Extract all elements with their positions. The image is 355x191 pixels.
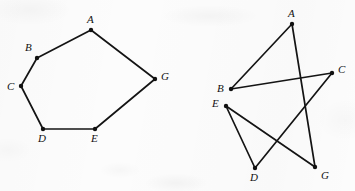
vertex-label-e: E (212, 98, 219, 109)
vertex-label-d: D (250, 172, 258, 183)
graph-vertex-c (330, 71, 334, 75)
graph-vertex-e (224, 104, 228, 108)
graph-vertex-d (253, 166, 257, 170)
graph-vertex-a (290, 22, 294, 26)
figure-page: ABCDEG ABCDEG (0, 0, 355, 191)
graph-vertex-g (313, 165, 317, 169)
vertex-label-g: G (321, 170, 329, 181)
graph-edge-c-d (255, 73, 332, 168)
right-figure-canvas (0, 0, 355, 191)
vertex-label-a: A (288, 8, 295, 19)
vertex-label-b: B (217, 83, 224, 94)
graph-edge-b-c (231, 73, 332, 89)
graph-edge-a-b (231, 24, 292, 89)
graph-vertex-b (229, 87, 233, 91)
vertex-label-c: C (338, 64, 345, 75)
graph-edge-g-a (292, 24, 315, 167)
